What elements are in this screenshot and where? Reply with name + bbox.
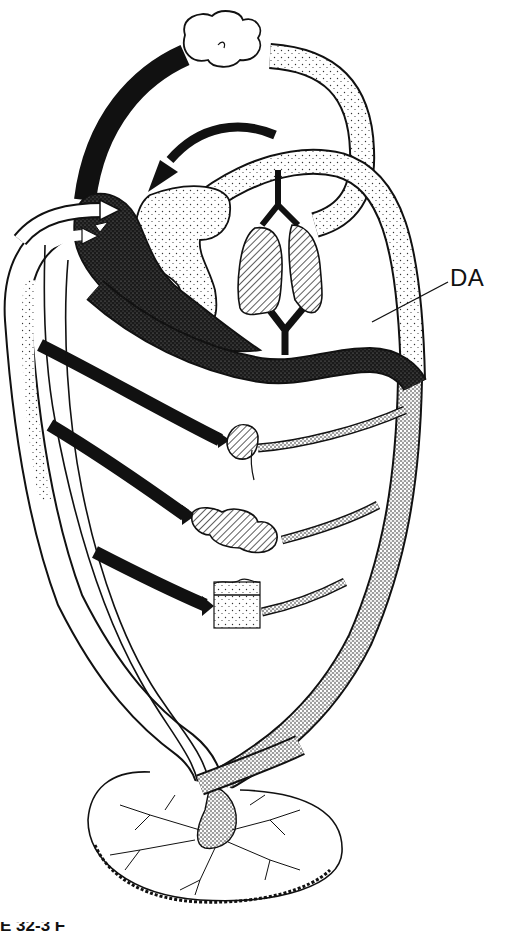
head-tissue: [184, 11, 260, 67]
placenta: [88, 745, 342, 902]
left-lung: [238, 228, 282, 315]
gut: [192, 508, 277, 553]
liver: [227, 425, 258, 459]
right-lung: [289, 225, 322, 313]
fetal-circulation-diagram: DA E 32-3 F: [0, 0, 506, 934]
lungs: [238, 225, 322, 315]
lower-body-tissue: [214, 582, 260, 628]
ductus-arteriosus-label: DA: [450, 264, 484, 292]
lower-organ-circuit: [95, 552, 345, 628]
superior-vena-cava: [85, 55, 185, 200]
